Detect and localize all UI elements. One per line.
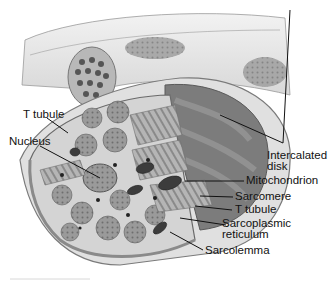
label-sarcoplasmic-reticulum-2: reticulum: [222, 229, 269, 240]
label-t-tubule-right: T tubule: [235, 204, 276, 215]
label-intercalated-disk-2: disk: [267, 161, 287, 172]
label-t-tubule-left: T tubule: [23, 109, 64, 120]
label-sarcolemma: Sarcolemma: [205, 245, 270, 256]
cardiac-muscle-diagram: T tubule Nucleus Intercalated disk Mitoc…: [0, 0, 333, 282]
label-nucleus: Nucleus: [9, 136, 51, 147]
label-sarcomere: Sarcomere: [235, 191, 291, 202]
label-mitochondrion: Mitochondrion: [246, 175, 318, 186]
